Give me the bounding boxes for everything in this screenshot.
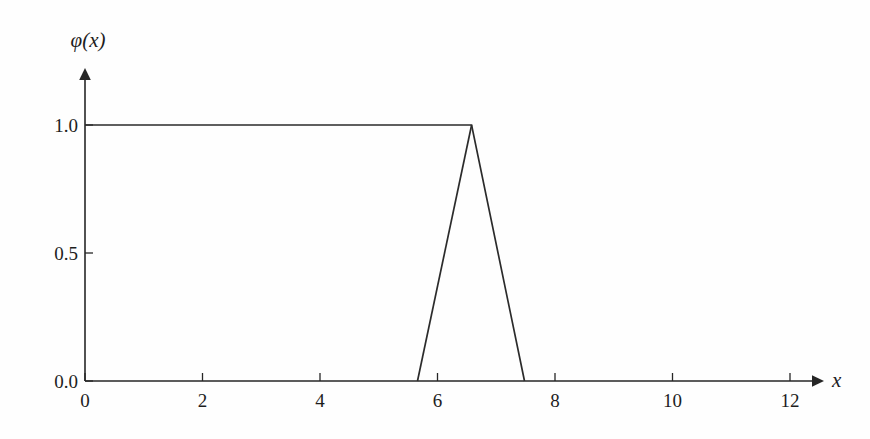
x-axis-label: x bbox=[832, 370, 841, 391]
y-axis-label: φ(x) bbox=[71, 30, 106, 51]
curve-plateau-falling bbox=[85, 125, 525, 381]
x-tick-label-12: 12 bbox=[781, 391, 800, 410]
x-axis-ticks bbox=[85, 373, 790, 381]
x-tick-label-2: 2 bbox=[198, 391, 208, 410]
y-tick-label-0.0: 0.0 bbox=[54, 372, 78, 391]
x-tick-label-10: 10 bbox=[663, 391, 682, 410]
x-tick-label-4: 4 bbox=[315, 391, 325, 410]
y-tick-label-1.0: 1.0 bbox=[54, 116, 78, 135]
x-axis-arrow-icon bbox=[812, 375, 824, 387]
chart-plot-area bbox=[0, 0, 870, 439]
curve-rising-edge bbox=[418, 125, 472, 381]
figure-canvas: 1.0 0.5 0.0 0 2 4 6 8 10 12 φ(x) x bbox=[0, 0, 870, 439]
x-tick-label-8: 8 bbox=[550, 391, 560, 410]
y-tick-label-0.5: 0.5 bbox=[54, 244, 78, 263]
y-axis-arrow-icon bbox=[79, 68, 91, 80]
y-axis-ticks bbox=[85, 125, 93, 381]
x-tick-label-6: 6 bbox=[433, 391, 443, 410]
x-tick-label-0: 0 bbox=[80, 391, 90, 410]
